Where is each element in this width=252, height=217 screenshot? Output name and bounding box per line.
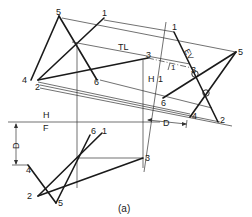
point-4-front: 4 <box>26 165 31 175</box>
edge-5-4-aux <box>190 52 236 117</box>
edge-5-6-aux <box>163 52 236 98</box>
edge-4-5-front <box>28 165 56 203</box>
dim-d-right-ext <box>186 120 187 128</box>
fold-line-hf: H F <box>8 110 160 133</box>
point-2-front: 2 <box>27 191 32 201</box>
edge-view-label: EV <box>182 47 195 61</box>
fold-hf-upper: H <box>43 110 50 120</box>
dim-d-right-label: D <box>163 118 170 128</box>
point-3-front: 3 <box>145 153 150 163</box>
proj-1 <box>104 20 174 32</box>
point-6-front: 6 <box>91 126 96 136</box>
edge-5-6-front <box>56 135 90 203</box>
figure-caption: (a) <box>118 203 130 214</box>
point-5-aux: 5 <box>238 47 243 57</box>
point-4-top: 4 <box>22 75 27 85</box>
proj-5 <box>62 18 236 52</box>
point-4-aux: 4 <box>192 111 197 121</box>
proj-6 <box>100 80 212 108</box>
dim-d-left-label: D <box>11 142 21 149</box>
point-3-aux: 3 <box>191 65 196 75</box>
edge-2-1-front <box>38 133 102 196</box>
tick-1 <box>168 63 170 70</box>
dimension-d-left: D <box>11 123 28 165</box>
point-5-front: 5 <box>58 198 63 208</box>
arrow-left-icon <box>147 118 152 122</box>
point-6-top: 6 <box>94 77 99 87</box>
fold-line-h1: H 1 1 <box>144 22 176 172</box>
front-view: 4 2 5 6 1 3 <box>26 126 150 208</box>
edge-2-3-top <box>38 58 148 80</box>
projection-lines <box>38 18 236 188</box>
fold-hf-lower: F <box>43 123 49 133</box>
edge-1-2-top <box>38 18 104 80</box>
fold-h1-left: H <box>148 74 155 84</box>
proj-2a <box>38 82 190 114</box>
point-1-top: 1 <box>102 8 107 18</box>
fold-h1-right: 1 <box>158 74 163 84</box>
arrow-down-icon <box>14 160 18 165</box>
point-2-top: 2 <box>35 82 40 92</box>
aux-view: 1 5 3 6 4 2 EV <box>161 22 243 125</box>
true-length-label: TL <box>118 42 129 52</box>
arrow-up-icon <box>14 123 18 128</box>
descriptive-geometry-drawing: 5 1 4 2 6 3 TL H 1 1 H F <box>0 0 252 217</box>
edge-5-4-top <box>31 16 59 80</box>
point-2-aux: 2 <box>220 115 225 125</box>
point-1-aux: 1 <box>172 22 177 32</box>
point-1-front: 1 <box>102 126 107 136</box>
edge-2-3-front <box>38 158 143 196</box>
dimension-d-right: D <box>147 118 187 128</box>
point-5-top: 5 <box>56 7 61 17</box>
point-6-aux: 6 <box>161 98 166 108</box>
top-view: 5 1 4 2 6 3 TL <box>22 7 151 92</box>
edge-5-6-top <box>59 16 97 80</box>
fold-line-h1-line <box>144 22 166 172</box>
line-1-label: 1 <box>171 63 176 72</box>
